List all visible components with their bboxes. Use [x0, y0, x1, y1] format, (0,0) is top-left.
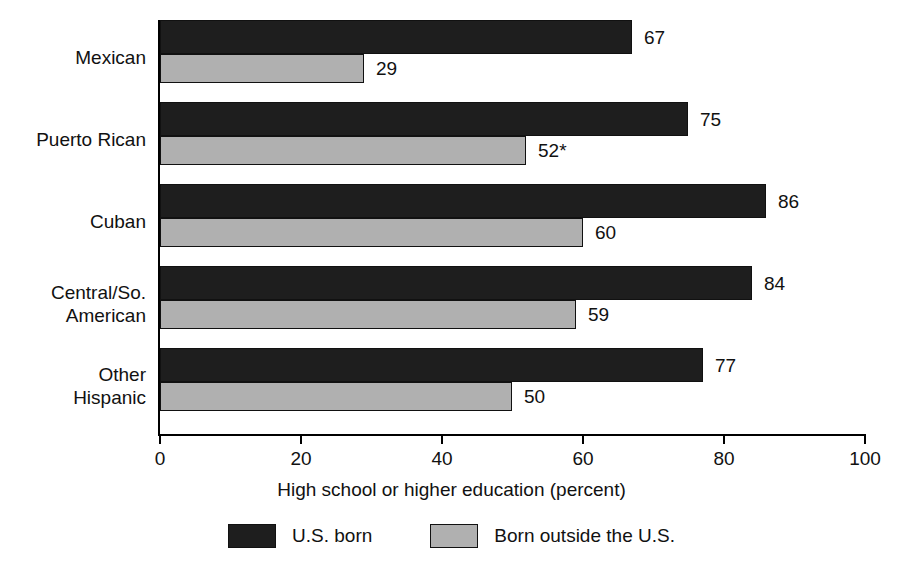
bar-value-central-so-american-us-born: 84: [764, 274, 785, 293]
bar-other-hispanic-foreign-born[interactable]: [160, 382, 512, 411]
bar-puerto-rican-foreign-born[interactable]: [160, 136, 526, 165]
bar-value-cuban-foreign-born: 60: [595, 223, 616, 242]
legend-item-us-born[interactable]: U.S. born: [228, 524, 372, 548]
bar-central-so-american-foreign-born[interactable]: [160, 300, 576, 329]
legend-swatch-foreign-born: [430, 524, 478, 548]
x-axis-title: High school or higher education (percent…: [0, 479, 903, 501]
category-label-other-hispanic: Other Hispanic: [73, 363, 146, 409]
chart-legend: U.S. born Born outside the U.S.: [0, 524, 903, 548]
category-label-central-so-american: Central/So. American: [51, 281, 146, 327]
bar-cuban-us-born[interactable]: [160, 184, 766, 218]
x-tick-80: [723, 434, 725, 444]
bar-value-central-so-american-foreign-born: 59: [588, 305, 609, 324]
bar-mexican-us-born[interactable]: [160, 20, 632, 54]
bar-chart: Mexican Puerto Rican Cuban Central/So. A…: [0, 0, 903, 577]
x-tick-label-80: 80: [689, 448, 759, 470]
bar-cuban-foreign-born[interactable]: [160, 218, 583, 247]
category-label-cuban: Cuban: [90, 210, 146, 233]
bar-value-puerto-rican-foreign-born: 52*: [538, 141, 567, 160]
bar-value-other-hispanic-foreign-born: 50: [524, 387, 545, 406]
legend-label-foreign-born: Born outside the U.S.: [494, 525, 675, 547]
x-tick-label-0: 0: [125, 448, 195, 470]
x-tick-label-20: 20: [266, 448, 336, 470]
plot-area: 0 20 40 60 80 100 67 29 75 52* 86 60: [160, 12, 865, 434]
category-axis-labels: Mexican Puerto Rican Cuban Central/So. A…: [0, 12, 146, 434]
bar-central-so-american-us-born[interactable]: [160, 266, 752, 300]
bar-puerto-rican-us-born[interactable]: [160, 102, 688, 136]
x-tick-0: [159, 434, 161, 444]
x-tick-label-60: 60: [548, 448, 618, 470]
legend-label-us-born: U.S. born: [292, 525, 372, 547]
category-label-mexican: Mexican: [75, 46, 146, 69]
bar-mexican-foreign-born[interactable]: [160, 54, 364, 83]
bar-value-cuban-us-born: 86: [778, 192, 799, 211]
x-tick-100: [864, 434, 866, 444]
x-tick-40: [441, 434, 443, 444]
bar-other-hispanic-us-born[interactable]: [160, 348, 703, 382]
category-label-puerto-rican: Puerto Rican: [36, 128, 146, 151]
x-axis-line: [158, 434, 865, 436]
bar-value-mexican-foreign-born: 29: [376, 59, 397, 78]
x-tick-20: [300, 434, 302, 444]
x-tick-60: [582, 434, 584, 444]
legend-swatch-us-born: [228, 524, 276, 548]
x-tick-label-100: 100: [830, 448, 900, 470]
bar-value-mexican-us-born: 67: [644, 28, 665, 47]
legend-item-foreign-born[interactable]: Born outside the U.S.: [430, 524, 675, 548]
bar-value-other-hispanic-us-born: 77: [715, 356, 736, 375]
bar-value-puerto-rican-us-born: 75: [700, 110, 721, 129]
x-tick-label-40: 40: [407, 448, 477, 470]
